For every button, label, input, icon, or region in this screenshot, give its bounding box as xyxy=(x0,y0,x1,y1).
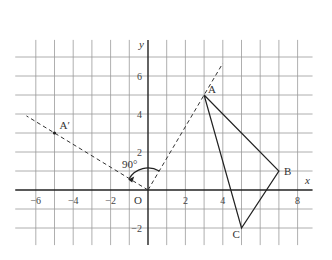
y-tick-label: 4 xyxy=(137,109,142,120)
x-tick-label: −2 xyxy=(105,195,116,206)
y-tick-label: 2 xyxy=(137,147,142,158)
x-tick-label: 8 xyxy=(295,195,300,206)
x-tick-label: −4 xyxy=(68,195,79,206)
point-a-prime xyxy=(53,131,56,134)
point-labels: ABCA′ xyxy=(60,83,292,240)
point-label-a-prime: A′ xyxy=(60,119,70,131)
y-tick-label: 6 xyxy=(137,71,142,82)
point-label-b: B xyxy=(284,165,291,177)
angle-label: 90° xyxy=(122,158,137,170)
point-label-a: A xyxy=(208,83,216,95)
y-axis-label: y xyxy=(138,38,144,50)
x-tick-label: −6 xyxy=(30,195,41,206)
point-label-c: C xyxy=(233,228,240,240)
x-tick-label: 2 xyxy=(183,195,188,206)
x-tick-label: 4 xyxy=(220,195,225,206)
grid xyxy=(15,40,312,245)
y-tick-label: −2 xyxy=(131,223,142,234)
rotation-diagram: x y O −6−4−2248642−2 90° ABCA′ xyxy=(0,0,332,260)
origin-label: O xyxy=(134,194,142,206)
tick-labels: −6−4−2248642−2 xyxy=(30,71,300,234)
x-axis-label: x xyxy=(304,174,310,186)
